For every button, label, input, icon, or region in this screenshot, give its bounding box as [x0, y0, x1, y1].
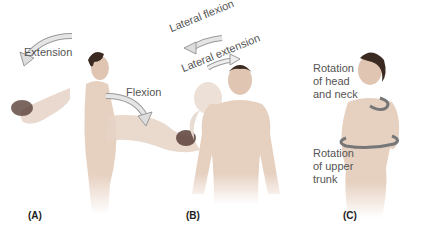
panel-label-a: (A): [28, 210, 42, 221]
panel-label-b: (B): [186, 210, 200, 221]
panel-b-figure: [190, 65, 280, 204]
panel-label-c: (C): [343, 210, 357, 221]
label-line: and neck: [313, 88, 358, 101]
label-line: trunk: [313, 173, 354, 186]
panel-a-figure: [11, 52, 200, 214]
label-rotation-head: Rotation of head and neck: [313, 62, 358, 101]
label-rotation-trunk: Rotation of upper trunk: [313, 147, 354, 186]
label-extension: Extension: [24, 46, 72, 58]
label-line: Rotation: [313, 147, 354, 160]
anatomy-illustration: [0, 0, 424, 236]
label-line: of head: [313, 75, 358, 88]
label-line: of upper: [313, 160, 354, 173]
label-flexion: Flexion: [126, 86, 161, 98]
label-line: Rotation: [313, 62, 358, 75]
